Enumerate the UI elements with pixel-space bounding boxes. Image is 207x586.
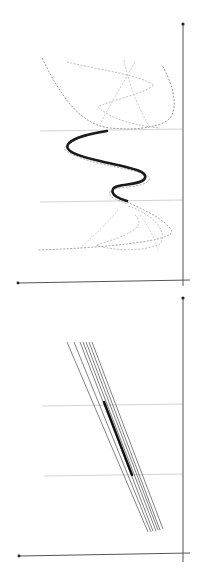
vertical-axis-arrow-dot — [181, 22, 184, 25]
dashed-curve — [80, 210, 118, 248]
dashed-curve — [96, 206, 162, 250]
dashed-curve — [100, 62, 135, 124]
bottom-plot-panel — [18, 296, 190, 562]
horizontal-axis-arrow-dot — [18, 555, 21, 558]
horizontal-axis — [19, 553, 190, 556]
horizontal-axis-arrow-dot — [17, 282, 20, 285]
vertical-axis-arrow-dot — [181, 296, 184, 299]
gridline — [40, 129, 183, 131]
bundle-line — [86, 342, 158, 530]
figure-canvas — [0, 0, 207, 586]
dashed-curve — [42, 58, 174, 129]
bundle-line — [67, 342, 148, 532]
horizontal-axis — [18, 280, 190, 283]
gridline — [44, 474, 183, 476]
main-curve — [67, 131, 145, 201]
dashed-curve — [67, 62, 160, 128]
gridline — [40, 200, 183, 202]
bundle-line — [92, 342, 163, 529]
bundle-line — [89, 342, 160, 530]
dashed-curve — [140, 215, 158, 250]
bundle-line — [74, 342, 151, 532]
bundle-line — [83, 342, 156, 531]
top-plot-panel — [17, 22, 190, 286]
